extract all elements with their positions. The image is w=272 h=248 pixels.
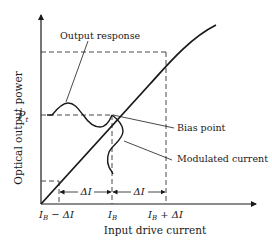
tick-label-ib-minus-di: IB − ΔI: [38, 209, 75, 222]
tick-label-ib: IB: [107, 209, 117, 222]
pt-level-label: Pt: [17, 109, 28, 124]
delta-left-label: ΔI: [79, 186, 92, 197]
output-response-wave: [47, 103, 112, 127]
output-response-label: Output response: [60, 30, 141, 41]
laser-modulation-diagram: Optical output power Pt Output response …: [0, 0, 272, 248]
modulated-current-label: Modulated current: [177, 153, 268, 164]
y-axis-label: Optical output power: [12, 70, 24, 184]
x-axis-label: Input drive current: [104, 224, 207, 236]
bias-point-label: Bias point: [177, 122, 226, 133]
tick-label-ib-plus-di: IB + ΔI: [147, 209, 184, 222]
guide-lines: [41, 52, 166, 204]
modulated-current-wave: [108, 115, 123, 174]
delta-right-label: ΔI: [132, 186, 145, 197]
output-response-leader: [66, 41, 88, 102]
modulated-current-leader: [124, 141, 172, 160]
